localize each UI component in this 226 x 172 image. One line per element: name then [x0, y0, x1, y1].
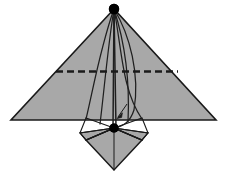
figure-root — [0, 0, 226, 172]
apex-node-radius — [109, 4, 119, 14]
kite-geometry-svg — [0, 0, 226, 172]
keel-node-radius — [109, 123, 118, 132]
